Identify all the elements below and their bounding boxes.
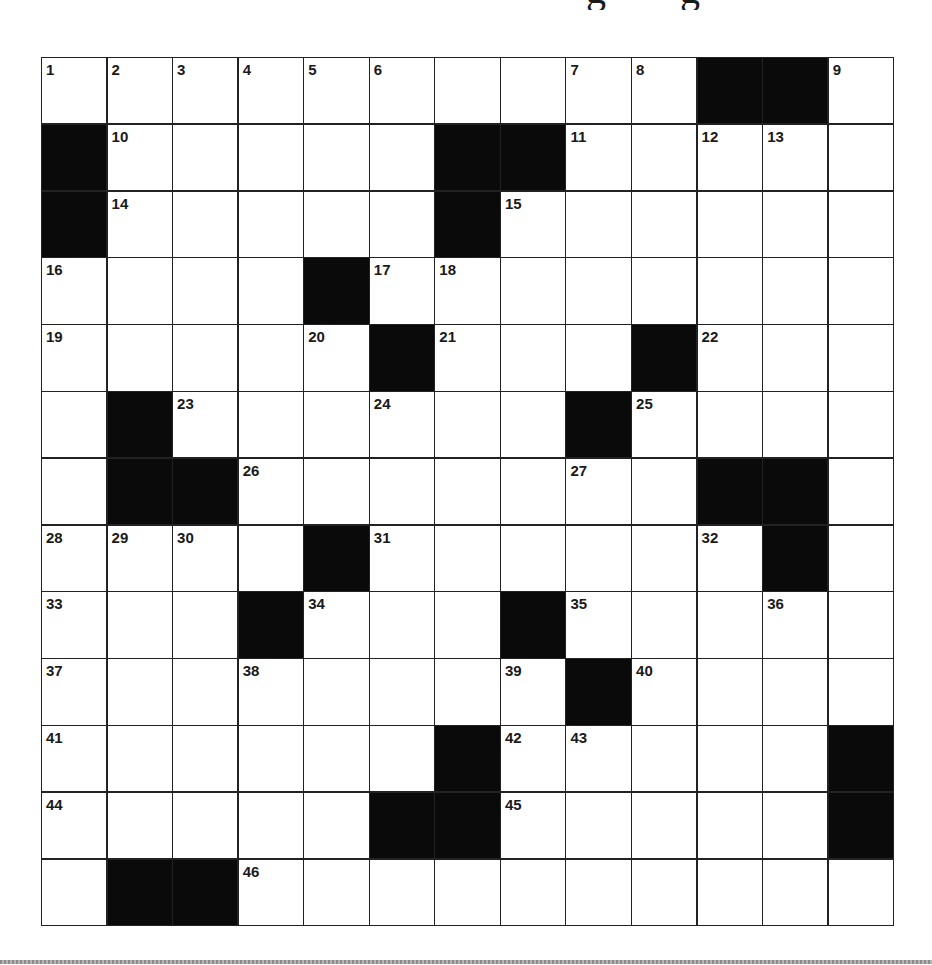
crossword-cell[interactable]: [632, 192, 696, 258]
crossword-cell[interactable]: [632, 592, 696, 658]
crossword-cell[interactable]: 12: [698, 125, 762, 191]
crossword-cell[interactable]: 14: [108, 192, 172, 258]
crossword-cell[interactable]: [632, 526, 696, 592]
crossword-cell[interactable]: [763, 860, 827, 926]
crossword-cell[interactable]: [566, 258, 630, 323]
crossword-cell[interactable]: [304, 793, 368, 859]
crossword-cell[interactable]: 3: [173, 58, 237, 123]
crossword-cell[interactable]: [239, 192, 303, 258]
crossword-cell[interactable]: 27: [566, 459, 630, 524]
crossword-cell[interactable]: [370, 860, 434, 926]
crossword-cell[interactable]: 11: [566, 125, 630, 191]
crossword-cell[interactable]: [698, 258, 762, 323]
crossword-cell[interactable]: [632, 793, 696, 859]
crossword-cell[interactable]: [173, 659, 237, 724]
crossword-cell[interactable]: 37: [42, 659, 106, 724]
crossword-cell[interactable]: [173, 325, 237, 391]
crossword-cell[interactable]: [108, 659, 172, 724]
crossword-cell[interactable]: [239, 125, 303, 191]
crossword-cell[interactable]: [698, 793, 762, 859]
crossword-cell[interactable]: [566, 325, 630, 391]
crossword-cell[interactable]: [763, 392, 827, 458]
crossword-cell[interactable]: 30: [173, 526, 237, 592]
crossword-cell[interactable]: [566, 192, 630, 258]
crossword-cell[interactable]: [173, 793, 237, 859]
crossword-cell[interactable]: 1: [42, 58, 106, 123]
crossword-cell[interactable]: [698, 392, 762, 458]
crossword-cell[interactable]: 41: [42, 726, 106, 792]
crossword-cell[interactable]: [108, 726, 172, 792]
crossword-cell[interactable]: 43: [566, 726, 630, 792]
crossword-cell[interactable]: [370, 192, 434, 258]
crossword-cell[interactable]: 29: [108, 526, 172, 592]
crossword-cell[interactable]: [763, 659, 827, 724]
crossword-cell[interactable]: 44: [42, 793, 106, 859]
crossword-cell[interactable]: 21: [435, 325, 499, 391]
crossword-cell[interactable]: [501, 526, 565, 592]
crossword-cell[interactable]: [370, 592, 434, 658]
crossword-cell[interactable]: 18: [435, 258, 499, 323]
crossword-cell[interactable]: [501, 860, 565, 926]
crossword-cell[interactable]: [698, 659, 762, 724]
crossword-cell[interactable]: [763, 726, 827, 792]
crossword-cell[interactable]: 2: [108, 58, 172, 123]
crossword-cell[interactable]: [370, 459, 434, 524]
crossword-cell[interactable]: [42, 459, 106, 524]
crossword-cell[interactable]: [632, 860, 696, 926]
crossword-cell[interactable]: [435, 860, 499, 926]
crossword-cell[interactable]: 16: [42, 258, 106, 323]
crossword-cell[interactable]: [239, 793, 303, 859]
crossword-cell[interactable]: [173, 258, 237, 323]
crossword-cell[interactable]: [698, 192, 762, 258]
crossword-cell[interactable]: 8: [632, 58, 696, 123]
crossword-cell[interactable]: 26: [239, 459, 303, 524]
crossword-cell[interactable]: [829, 860, 893, 926]
crossword-cell[interactable]: [829, 459, 893, 524]
crossword-cell[interactable]: [370, 659, 434, 724]
crossword-cell[interactable]: 31: [370, 526, 434, 592]
crossword-cell[interactable]: [370, 125, 434, 191]
crossword-cell[interactable]: 45: [501, 793, 565, 859]
crossword-cell[interactable]: 40: [632, 659, 696, 724]
crossword-cell[interactable]: 15: [501, 192, 565, 258]
crossword-cell[interactable]: [435, 592, 499, 658]
crossword-cell[interactable]: [829, 125, 893, 191]
crossword-cell[interactable]: [763, 192, 827, 258]
crossword-cell[interactable]: 5: [304, 58, 368, 123]
crossword-cell[interactable]: 22: [698, 325, 762, 391]
crossword-cell[interactable]: [173, 592, 237, 658]
crossword-cell[interactable]: [304, 659, 368, 724]
crossword-cell[interactable]: [501, 58, 565, 123]
crossword-cell[interactable]: [501, 459, 565, 524]
crossword-cell[interactable]: [42, 860, 106, 926]
crossword-cell[interactable]: 4: [239, 58, 303, 123]
crossword-cell[interactable]: 39: [501, 659, 565, 724]
crossword-cell[interactable]: [435, 659, 499, 724]
crossword-cell[interactable]: 24: [370, 392, 434, 458]
crossword-cell[interactable]: [304, 459, 368, 524]
crossword-cell[interactable]: [42, 392, 106, 458]
crossword-cell[interactable]: [239, 392, 303, 458]
crossword-cell[interactable]: [829, 325, 893, 391]
crossword-cell[interactable]: [173, 726, 237, 792]
crossword-cell[interactable]: [829, 192, 893, 258]
crossword-cell[interactable]: [304, 860, 368, 926]
crossword-cell[interactable]: [632, 258, 696, 323]
crossword-cell[interactable]: 13: [763, 125, 827, 191]
crossword-cell[interactable]: 20: [304, 325, 368, 391]
crossword-cell[interactable]: [501, 392, 565, 458]
crossword-cell[interactable]: [435, 392, 499, 458]
crossword-cell[interactable]: 17: [370, 258, 434, 323]
crossword-cell[interactable]: 7: [566, 58, 630, 123]
crossword-cell[interactable]: [829, 592, 893, 658]
crossword-cell[interactable]: [304, 392, 368, 458]
crossword-cell[interactable]: [304, 125, 368, 191]
crossword-cell[interactable]: [108, 258, 172, 323]
crossword-cell[interactable]: [632, 459, 696, 524]
crossword-cell[interactable]: 38: [239, 659, 303, 724]
crossword-cell[interactable]: [829, 258, 893, 323]
crossword-cell[interactable]: [239, 526, 303, 592]
crossword-cell[interactable]: 25: [632, 392, 696, 458]
crossword-cell[interactable]: [829, 526, 893, 592]
crossword-cell[interactable]: [108, 793, 172, 859]
